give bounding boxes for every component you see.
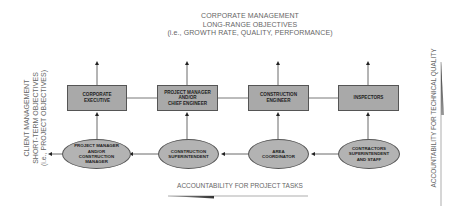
- ellipse-label: SUPERINTENDENT: [349, 151, 389, 156]
- project-tasks-label: ACCOUNTABILITY FOR PROJECT TASKS: [165, 182, 315, 189]
- box-label: EXECUTIVE: [82, 98, 111, 104]
- ellipse-label: COORDINATOR: [262, 154, 295, 159]
- box-construction-engineer: CONSTRUCTION ENGINEER: [248, 85, 309, 111]
- top-header-line3: (i.e., GROWTH RATE, QUALITY, PERFORMANCE…: [150, 29, 350, 38]
- ellipse-contractors-superintendent-staff: CONTRACTORS SUPERINTENDENT AND STAFF: [338, 139, 400, 169]
- ellipse-area-coordinator: AREA COORDINATOR: [248, 139, 309, 169]
- technical-quality-axis: ACCOUNTABILITY FOR TECHNICAL QUALITY: [425, 30, 441, 206]
- client-management-header: CLIENT MANAGEMENT SHORT-TERM OBJECTIVES …: [4, 58, 68, 178]
- box-label: INSPECTORS: [354, 95, 384, 101]
- technical-quality-label: ACCOUNTABILITY FOR TECHNICAL QUALITY: [430, 48, 437, 187]
- box-project-manager-chief-engineer: PROJECT MANAGER AND/OR CHIEF ENGINEER: [157, 85, 218, 111]
- box-label: ENGINEER: [260, 98, 297, 104]
- box-corporate-executive: CORPORATE EXECUTIVE: [67, 85, 127, 111]
- box-label: CHIEF ENGINEER: [164, 101, 211, 107]
- left-header-line1: CLIENT MANAGEMENT: [23, 70, 32, 166]
- ellipse-label: MANAGER: [74, 159, 119, 164]
- left-header-line2: SHORT-TERM OBJECTIVES: [32, 70, 41, 166]
- ellipse-construction-superintendent: CONSTRUCTION SUPERINTENDENT: [158, 139, 219, 169]
- ellipse-label: PROJECT MANAGER: [74, 143, 119, 148]
- box-inspectors: INSPECTORS: [338, 85, 399, 111]
- ellipse-label: AND STAFF: [349, 157, 389, 162]
- corporate-management-header: CORPORATE MANAGEMENT LONG-RANGE OBJECTIV…: [150, 12, 350, 38]
- top-header-line2: LONG-RANGE OBJECTIVES: [150, 21, 350, 30]
- top-header-line1: CORPORATE MANAGEMENT: [150, 12, 350, 21]
- left-header-line3: (i.e., PROJECT OBJECTIVES): [40, 70, 49, 166]
- ellipse-project-manager-construction-manager: PROJECT MANAGER AND/OR CONSTRUCTION MANA…: [62, 139, 131, 169]
- ellipse-label: SUPERINTENDENT: [168, 154, 208, 159]
